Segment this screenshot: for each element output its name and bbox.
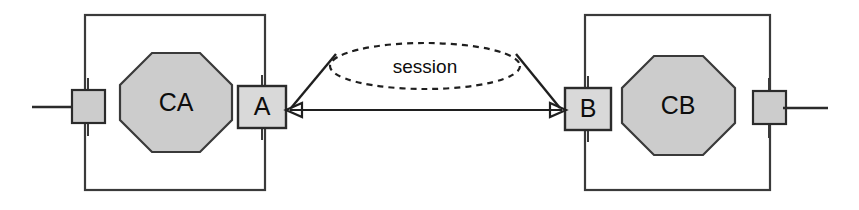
component-label-cb: CB xyxy=(661,91,696,119)
right-system-group: B CB xyxy=(565,15,828,190)
session-tie-line-right xyxy=(516,54,560,108)
session-label: session xyxy=(393,56,457,77)
diagram-svg: CA A B CB xyxy=(0,0,859,210)
left-system-group: CA A xyxy=(32,15,286,190)
left-port-square xyxy=(72,90,105,123)
interface-label-a: A xyxy=(254,92,271,120)
diagram-canvas: CA A B CB xyxy=(0,0,859,210)
session-connector-group: session xyxy=(286,43,566,117)
interface-label-b: B xyxy=(580,94,597,122)
right-port-square xyxy=(753,91,786,124)
component-label-ca: CA xyxy=(159,88,194,116)
session-tie-line-left xyxy=(291,54,336,108)
